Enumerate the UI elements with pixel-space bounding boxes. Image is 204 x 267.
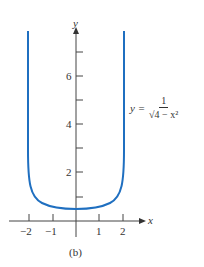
function-label: y = 1 √4 − x² bbox=[130, 95, 178, 120]
panel-label: (b) bbox=[69, 247, 82, 258]
y-tick-label: 6 bbox=[66, 71, 72, 82]
y-tick-label: 2 bbox=[66, 167, 72, 178]
y-ticks bbox=[76, 52, 83, 197]
x-axis-label: x bbox=[148, 215, 153, 226]
x-tick-label: 2 bbox=[120, 226, 126, 237]
equation-lhs: y = bbox=[130, 102, 145, 114]
x-tick-label: 1 bbox=[96, 226, 102, 237]
x-tick-label: −1 bbox=[45, 226, 57, 237]
x-tick-label: −2 bbox=[20, 226, 32, 237]
y-axis-label: y bbox=[73, 18, 78, 29]
x-axis-arrow-icon bbox=[139, 218, 146, 224]
equation-numerator: 1 bbox=[159, 95, 168, 108]
equation-fraction: 1 √4 − x² bbox=[149, 95, 178, 120]
equation-denominator: √4 − x² bbox=[149, 108, 178, 120]
y-tick-label: 4 bbox=[66, 119, 72, 130]
